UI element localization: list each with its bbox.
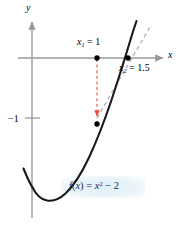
newtons-method-figure: y x x1 = 1 x2 = 1.5 −1 f(x) = x2 − 2	[0, 0, 180, 239]
x1-equals: =	[85, 36, 96, 47]
y-axis-label: y	[26, 2, 30, 13]
x1-annotation: x1 = 1	[77, 36, 100, 48]
x2-equals: =	[127, 62, 138, 73]
x2-annotation: x2 = 1.5	[119, 62, 150, 74]
function-label: f(x) = x2 − 2	[69, 180, 119, 191]
parabola-left-tail	[24, 169, 33, 188]
y-tick-label-minus-1: −1	[8, 113, 19, 124]
parabola-curve	[33, 21, 137, 201]
function-minus: −	[103, 180, 114, 191]
function-equals: =	[84, 180, 95, 191]
point-x2-on-axis	[125, 55, 130, 60]
x1-value: 1	[95, 36, 100, 47]
x2-value: 1.5	[137, 62, 150, 73]
point-curve-at-x1	[94, 121, 99, 126]
point-x1-on-axis	[94, 55, 99, 60]
x-axis-label: x	[168, 49, 172, 60]
function-constant: 2	[114, 180, 119, 191]
y-tick-text: −1	[8, 113, 19, 124]
